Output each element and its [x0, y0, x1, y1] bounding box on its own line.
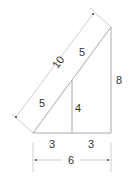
label-hypotenuse-lower: 5: [39, 97, 45, 109]
arrow-tick-icon: [15, 116, 17, 118]
label-small-height: 4: [75, 102, 81, 114]
arrow-tick-icon: [92, 13, 94, 15]
diagram-canvas: 10 5 5 4 8 3 3 6: [0, 0, 130, 182]
label-base-total: 6: [68, 154, 74, 166]
label-base-right: 3: [88, 138, 94, 150]
diag-extension-upper: [90, 8, 111, 27]
arrow-right-icon: [107, 159, 110, 161]
label-hypotenuse-upper: 5: [79, 46, 85, 58]
label-base-left: 3: [49, 138, 55, 150]
label-large-height: 8: [116, 74, 122, 86]
triangle-diagram: 10 5 5 4 8 3 3 6: [0, 0, 130, 182]
arrow-left-icon: [34, 159, 37, 161]
